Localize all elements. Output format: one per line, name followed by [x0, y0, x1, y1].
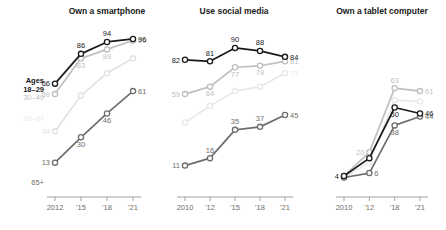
data-point-2-2-1 — [207, 103, 212, 108]
x-tick-label-3-2: '18 — [390, 203, 400, 212]
data-label-3-3-1: 6 — [374, 169, 378, 178]
data-label-1-3-1: 30 — [77, 140, 85, 149]
data-point-3-1-3 — [417, 111, 422, 116]
data-point-3-3-1 — [367, 170, 372, 175]
data-label-2-3-1: 16 — [206, 146, 214, 155]
data-point-2-3-1 — [207, 156, 212, 161]
data-point-1-2-2 — [104, 71, 109, 76]
data-label-2-0-0: 82 — [172, 56, 180, 65]
data-label-3-3-2: 38 — [390, 128, 398, 137]
data-label-1-3-3: 61 — [138, 87, 146, 96]
data-label-1-0-2: 94 — [103, 29, 111, 38]
data-point-1-2-3 — [130, 56, 135, 61]
data-point-1-0-2 — [104, 39, 109, 44]
series-line-2-2 — [185, 73, 285, 122]
group-label-50-64: 50–64 — [23, 114, 44, 123]
data-point-1-0-1 — [78, 51, 83, 56]
series-line-1-3 — [55, 91, 133, 163]
data-point-2-3-2 — [232, 127, 237, 132]
data-point-3-1-1 — [367, 156, 372, 161]
data-point-1-0-3 — [130, 36, 135, 41]
data-label-2-3-4: 45 — [290, 111, 298, 120]
data-point-3-2-2 — [392, 97, 397, 102]
data-label-2-0-2: 90 — [231, 35, 239, 44]
data-label-3-1-2: 50 — [390, 110, 398, 119]
panel-3: Own a tablet computer2010'12'18'21206361… — [335, 6, 434, 212]
data-point-2-3-4 — [282, 112, 287, 117]
x-tick-label-1-1: '15 — [76, 203, 86, 212]
data-point-1-3-3 — [130, 89, 135, 94]
data-label-2-1-1: 64 — [206, 89, 214, 98]
data-label-1-0-3: 96 — [138, 35, 146, 44]
chart-svg: Own a smartphone2012'15'18'2134598389951… — [0, 0, 446, 230]
data-label-2-0-4: 84 — [290, 53, 298, 62]
data-label-2-3-3: 37 — [256, 114, 264, 123]
data-label-3-0-2: 63 — [390, 76, 398, 85]
data-label-2-2-4: 73 — [290, 69, 298, 78]
x-tick-label-3-3: '21 — [415, 203, 425, 212]
data-point-2-2-0 — [182, 120, 187, 125]
data-point-2-0-4 — [282, 54, 287, 59]
data-label-1-1-1: 83 — [77, 61, 85, 70]
panel-title-3: Own a tablet computer — [336, 6, 428, 16]
data-point-3-1-0 — [341, 173, 346, 178]
data-point-1-3-0 — [52, 160, 57, 165]
data-label-3-0-1: 20 — [356, 148, 364, 157]
x-tick-label-1-3: '21 — [128, 203, 138, 212]
small-multiples-line-chart: Own a smartphone2012'15'18'2134598389951… — [0, 0, 446, 230]
data-label-3-1-0: 4 — [335, 172, 339, 181]
panel-1: Own a smartphone2012'15'18'2134598389951… — [42, 6, 147, 212]
data-point-2-0-3 — [257, 48, 262, 53]
x-tick-label-3-0: 2010 — [336, 203, 353, 212]
x-tick-label-3-1: '12 — [364, 203, 374, 212]
data-point-2-2-4 — [282, 71, 287, 76]
series-2-3: 1116353745 — [172, 111, 298, 171]
x-tick-label-2-2: '15 — [230, 203, 240, 212]
panel-2: Use social media2010'12'15'18'2173596477… — [172, 6, 299, 212]
series-3-0: 206361 — [341, 76, 433, 179]
data-point-2-2-3 — [257, 84, 262, 89]
x-tick-label-2-1: '12 — [205, 203, 215, 212]
x-tick-label-2-3: '18 — [255, 203, 265, 212]
series-2-0: 8281908884 — [172, 35, 299, 64]
panel-title-2: Use social media — [200, 6, 269, 16]
x-tick-label-2-0: 2010 — [177, 203, 194, 212]
data-point-2-0-2 — [232, 45, 237, 50]
data-point-3-0-2 — [392, 86, 397, 91]
panel-title-1: Own a smartphone — [69, 6, 146, 16]
data-point-1-2-0 — [52, 129, 57, 134]
data-label-2-3-0: 11 — [172, 161, 180, 170]
data-point-2-2-2 — [232, 89, 237, 94]
group-label-ages-18-29: Ages — [26, 76, 44, 85]
data-label-1-1-2: 89 — [103, 52, 111, 61]
group-label-30-49: 30–49 — [23, 93, 44, 102]
data-label-2-1-3: 78 — [256, 68, 264, 77]
data-point-2-3-0 — [182, 163, 187, 168]
x-tick-label-1-2: '18 — [102, 203, 112, 212]
data-point-3-2-3 — [417, 99, 422, 104]
data-label-2-1-2: 77 — [231, 70, 239, 79]
data-point-1-2-1 — [78, 93, 83, 98]
data-point-2-0-0 — [182, 57, 187, 62]
data-label-1-3-2: 46 — [103, 116, 111, 125]
data-label-1-2-0: 34 — [42, 127, 50, 136]
data-point-1-0-0 — [52, 81, 57, 86]
data-point-2-1-0 — [182, 91, 187, 96]
x-tick-label-1-0: 2012 — [47, 203, 64, 212]
data-label-1-3-0: 13 — [42, 158, 50, 167]
data-label-1-0-1: 86 — [77, 41, 85, 50]
data-label-2-1-0: 59 — [172, 90, 180, 99]
data-point-1-1-0 — [52, 91, 57, 96]
data-point-2-3-3 — [257, 124, 262, 129]
data-label-2-0-3: 88 — [256, 38, 264, 47]
data-label-2-3-2: 35 — [231, 117, 239, 126]
data-label-3-1-3: 46 — [425, 109, 433, 118]
x-tick-label-2-4: '21 — [280, 203, 290, 212]
data-label-3-0-3: 61 — [425, 87, 433, 96]
group-label-65-plus: 65+ — [31, 178, 44, 187]
data-point-2-0-1 — [207, 59, 212, 64]
data-label-2-0-1: 81 — [206, 49, 214, 58]
data-point-3-0-3 — [417, 89, 422, 94]
